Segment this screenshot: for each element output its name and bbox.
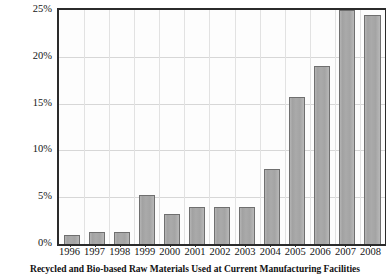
x-tick-label: 2007 [333, 246, 358, 258]
x-tick-label: 2005 [283, 246, 308, 258]
x-tick-mark [145, 244, 146, 247]
x-tick-label: 2000 [157, 246, 182, 258]
x-tick-mark [270, 244, 271, 247]
bar-slot [310, 10, 335, 244]
bar-slot [184, 10, 209, 244]
bar-slot [59, 10, 84, 244]
x-tick-label: 2006 [308, 246, 333, 258]
y-tick-label: 25% [4, 3, 52, 14]
x-axis: 1996199719981999200020012002200320042005… [57, 246, 383, 258]
y-tick-label: 15% [4, 97, 52, 108]
bar-1998 [114, 232, 130, 244]
bar-1996 [64, 235, 80, 244]
x-tick-label: 1998 [107, 246, 132, 258]
figure-caption: Recycled and Bio-based Raw Materials Use… [0, 264, 390, 275]
x-tick-mark [370, 244, 371, 247]
bar-2003 [239, 207, 255, 244]
bar-2002 [214, 207, 230, 244]
x-tick-label: 2004 [258, 246, 283, 258]
x-tick-mark [70, 244, 71, 247]
x-tick-mark [345, 244, 346, 247]
x-tick-mark [95, 244, 96, 247]
bar-2005 [289, 97, 305, 244]
y-tick-label: 10% [4, 143, 52, 154]
bar-2000 [164, 214, 180, 244]
bar-slot [209, 10, 234, 244]
x-tick-label: 2003 [233, 246, 258, 258]
bar-slot [159, 10, 184, 244]
y-tick-label: 20% [4, 50, 52, 61]
bar-1999 [139, 195, 155, 244]
bar-slot [260, 10, 285, 244]
x-tick-label: 1997 [82, 246, 107, 258]
bar-2004 [264, 169, 280, 244]
bar-slot [235, 10, 260, 244]
bar-series [59, 10, 385, 244]
x-tick-mark [245, 244, 246, 247]
bar-slot [335, 10, 360, 244]
x-tick-mark [195, 244, 196, 247]
bar-2001 [189, 207, 205, 244]
x-tick-label: 2002 [207, 246, 232, 258]
x-tick-mark [320, 244, 321, 247]
bar-slot [84, 10, 109, 244]
bar-2006 [314, 66, 330, 244]
bar-slot [134, 10, 159, 244]
x-tick-mark [120, 244, 121, 247]
bar-slot [109, 10, 134, 244]
x-tick-label: 1996 [57, 246, 82, 258]
x-tick-mark [295, 244, 296, 247]
x-tick-mark [220, 244, 221, 247]
x-tick-label: 2008 [358, 246, 383, 258]
bar-slot [285, 10, 310, 244]
x-tick-mark [170, 244, 171, 247]
bar-slot [360, 10, 385, 244]
x-tick-label: 2001 [182, 246, 207, 258]
bar-1997 [89, 232, 105, 244]
plot-area [57, 8, 386, 246]
bar-2007 [339, 10, 355, 244]
x-tick-label: 1999 [132, 246, 157, 258]
bar-2008 [364, 15, 380, 244]
y-tick-label: 0% [4, 237, 52, 248]
y-tick-label: 5% [4, 190, 52, 201]
